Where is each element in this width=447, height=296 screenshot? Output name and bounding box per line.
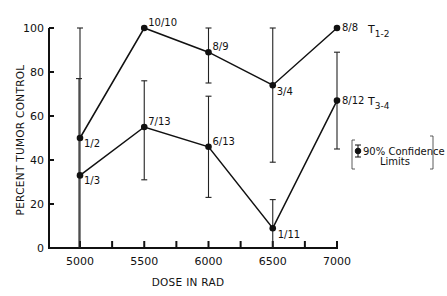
y-tick-label: 40 — [30, 154, 44, 167]
data-point — [269, 82, 276, 89]
fraction-label: 8/12 — [342, 95, 364, 106]
y-tick-label: 100 — [23, 22, 44, 35]
legend: 90% Confidence Limits — [352, 136, 445, 169]
fraction-label: 7/13 — [148, 116, 170, 127]
data-point — [141, 124, 148, 131]
errorbar-icon — [355, 145, 361, 157]
x-axis-ticks: 50005500600065007000 — [66, 241, 351, 268]
y-tick-label: 20 — [30, 198, 44, 211]
fraction-label: 3/4 — [277, 86, 293, 97]
legend-line2: Limits — [380, 156, 410, 167]
x-tick-label: 5500 — [130, 255, 158, 268]
x-tick-label: 6000 — [195, 255, 223, 268]
data-point — [334, 25, 341, 32]
dose-response-chart: 020406080100 50005500600065007000 PERCEN… — [0, 0, 447, 296]
x-tick-label: 6500 — [259, 255, 287, 268]
data-point — [205, 144, 212, 151]
data-point — [77, 135, 84, 142]
fraction-label: 1/3 — [84, 175, 100, 186]
y-tick-label: 60 — [30, 110, 44, 123]
data-point — [205, 49, 212, 56]
fraction-label: 1/2 — [84, 138, 100, 149]
fraction-label: 8/8 — [342, 22, 358, 33]
svg-text:T3-4: T3-4 — [367, 95, 390, 111]
y-axis-title: PERCENT TUMOR CONTROL — [14, 65, 26, 216]
data-point — [141, 25, 148, 32]
series-label-t34: T3-4 — [367, 95, 390, 111]
y-tick-label: 0 — [37, 242, 44, 255]
series-label-t12: T1-2 — [367, 23, 389, 39]
fraction-label: 8/9 — [213, 41, 229, 52]
x-tick-label: 5000 — [66, 255, 94, 268]
x-tick-label: 7000 — [323, 255, 351, 268]
data-point — [77, 172, 84, 179]
data-point — [269, 225, 276, 232]
fraction-label: 6/13 — [213, 136, 235, 147]
y-tick-label: 80 — [30, 66, 44, 79]
x-axis-title: DOSE IN RAD — [152, 276, 225, 288]
fraction-label: 1/11 — [278, 229, 300, 240]
data-point — [334, 97, 341, 104]
svg-text:T1-2: T1-2 — [367, 23, 389, 39]
fraction-label: 10/10 — [148, 17, 177, 28]
